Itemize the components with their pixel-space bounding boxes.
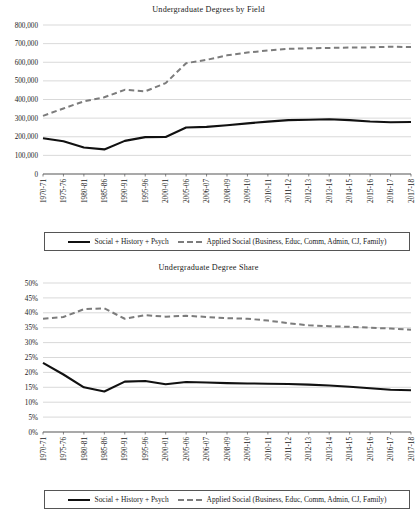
x-axis-tick-label: 1980-81: [81, 437, 89, 461]
y-axis-tick-label: 600,000: [15, 59, 39, 67]
x-axis-tick-label: 2011-12: [285, 179, 293, 203]
y-axis-tick-label: 100,000: [15, 152, 39, 160]
legend-label-solid: Social + History + Psych: [95, 495, 169, 504]
x-axis-tick-label: 2014-15: [346, 179, 354, 203]
x-axis-tick-label: 2015-16: [367, 179, 375, 203]
x-axis-tick-label: 2008-09: [224, 437, 232, 461]
series-line-applied-social: [43, 308, 411, 329]
y-axis-tick-label: 25%: [25, 354, 38, 362]
chart-canvas-degrees-by-field: 0100,000200,000300,000400,000500,000600,…: [0, 14, 417, 229]
chart-title-1: Undergraduate Degrees by Field: [0, 0, 417, 14]
x-axis-tick-label: 2015-16: [367, 437, 375, 461]
y-axis-tick-label: 300,000: [15, 115, 39, 123]
x-axis-tick-label: 2000-01: [162, 179, 170, 203]
y-axis-tick-label: 15%: [25, 384, 38, 392]
x-axis-tick-label: 2009-10: [244, 179, 252, 203]
y-axis-tick-label: 0: [34, 171, 38, 179]
x-axis-tick-label: 1970-71: [40, 437, 48, 461]
x-axis-tick-label: 2000-01: [162, 437, 170, 461]
x-axis-tick-label: 2008-09: [224, 179, 232, 203]
solid-line-swatch-icon: [68, 499, 90, 501]
dashed-line-swatch-icon: [178, 499, 202, 501]
chart-legend-2: Social + History + Psych Applied Social …: [44, 490, 410, 509]
x-axis-tick-label: 2010-11: [265, 179, 273, 203]
chart-canvas-degree-share: 0%5%10%15%20%25%30%35%40%45%50%1970-7119…: [0, 272, 417, 487]
y-axis-tick-label: 10%: [25, 399, 38, 407]
x-axis-tick-label: 1995-96: [142, 437, 150, 461]
x-axis-tick-label: 1975-76: [60, 179, 68, 203]
solid-line-swatch-icon: [68, 241, 90, 243]
x-axis-tick-label: 2017-18: [408, 437, 416, 461]
y-axis-tick-label: 20%: [25, 369, 38, 377]
chart-title-2: Undergraduate Degree Share: [0, 258, 417, 272]
y-axis-tick-label: 200,000: [15, 133, 39, 141]
x-axis-tick-label: 2013-14: [326, 179, 334, 203]
legend-entry-solid[interactable]: Social + History + Psych: [68, 495, 169, 504]
x-axis-tick-label: 2012-13: [305, 437, 313, 461]
y-axis-tick-label: 5%: [28, 414, 38, 422]
x-axis-tick-label: 1970-71: [40, 179, 48, 203]
x-axis-tick-label: 2016-17: [387, 437, 395, 461]
y-axis-tick-label: 35%: [25, 324, 38, 332]
chart-block-degree-share: Undergraduate Degree Share 0%5%10%15%20%…: [0, 258, 417, 516]
x-axis-tick-label: 1990-91: [121, 179, 129, 203]
legend-label-dashed: Applied Social (Business, Educ, Comm, Ad…: [207, 237, 387, 246]
x-axis-tick-label: 2012-13: [305, 179, 313, 203]
x-axis-tick-label: 2006-07: [203, 437, 211, 461]
y-axis-tick-label: 0%: [28, 429, 38, 437]
y-axis-tick-label: 700,000: [15, 40, 39, 48]
y-axis-tick-label: 800,000: [15, 22, 39, 30]
x-axis-tick-label: 1975-76: [60, 437, 68, 461]
x-axis-tick-label: 2006-07: [203, 179, 211, 203]
legend-entry-dashed[interactable]: Applied Social (Business, Educ, Comm, Ad…: [178, 495, 387, 504]
legend-label-dashed: Applied Social (Business, Educ, Comm, Ad…: [207, 495, 387, 504]
x-axis-tick-label: 2017-18: [408, 179, 416, 203]
y-axis-tick-label: 400,000: [15, 96, 39, 104]
y-axis-tick-label: 45%: [25, 295, 38, 303]
series-line-applied-social: [43, 47, 411, 116]
x-axis-tick-label: 2009-10: [244, 437, 252, 461]
y-axis-tick-label: 50%: [25, 280, 38, 288]
x-axis-tick-label: 2011-12: [285, 437, 293, 461]
y-axis-tick-label: 500,000: [15, 77, 39, 85]
x-axis-tick-label: 1990-91: [121, 437, 129, 461]
series-line-social-history-psych: [43, 119, 411, 149]
x-axis-tick-label: 2005-06: [183, 437, 191, 461]
y-axis-tick-label: 40%: [25, 309, 38, 317]
legend-entry-solid[interactable]: Social + History + Psych: [68, 237, 169, 246]
legend-label-solid: Social + History + Psych: [95, 237, 169, 246]
y-axis-tick-label: 30%: [25, 339, 38, 347]
x-axis-tick-label: 1980-81: [81, 179, 89, 203]
x-axis-tick-label: 1985-86: [101, 179, 109, 203]
x-axis-tick-label: 2013-14: [326, 437, 334, 461]
x-axis-tick-label: 2014-15: [346, 437, 354, 461]
x-axis-tick-label: 2016-17: [387, 179, 395, 203]
legend-entry-dashed[interactable]: Applied Social (Business, Educ, Comm, Ad…: [178, 237, 387, 246]
chart-block-degrees-by-field: Undergraduate Degrees by Field 0100,0002…: [0, 0, 417, 258]
dashed-line-swatch-icon: [178, 241, 202, 243]
x-axis-tick-label: 2010-11: [265, 437, 273, 461]
chart-legend-1: Social + History + Psych Applied Social …: [44, 232, 410, 251]
x-axis-tick-label: 1985-86: [101, 437, 109, 461]
x-axis-tick-label: 1995-96: [142, 179, 150, 203]
x-axis-tick-label: 2005-06: [183, 179, 191, 203]
